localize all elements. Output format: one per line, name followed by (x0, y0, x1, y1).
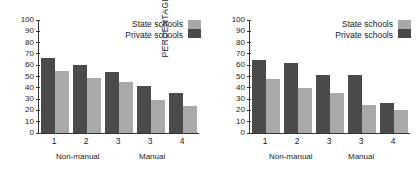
bar-private-schools (284, 63, 298, 133)
bar-group (252, 20, 280, 133)
y-axis-ticks-left: 1009080706050403020100 (14, 20, 39, 133)
bar-state-schools (362, 105, 376, 133)
y-axis-label-right: PERCENTAGE (159, 0, 171, 83)
y-tick-label: 90 (236, 26, 245, 35)
y-axis-ticks-right: 1009080706050403020100 (225, 20, 250, 133)
bar-group (284, 20, 312, 133)
x-tick-label: 1 (40, 135, 68, 147)
x-tick-label: 3 (315, 135, 343, 147)
legend-label-private-schools: Private schools (335, 30, 393, 41)
bar-chart-figure: PERCENTAGE 1009080706050403020100 12334 … (0, 0, 419, 174)
chart-panel-left: PERCENTAGE 1009080706050403020100 12334 … (0, 0, 209, 174)
y-tick-label: 50 (25, 72, 34, 81)
x-axis-ticks-right: 12334 (249, 135, 409, 147)
x-tick-label: 2 (283, 135, 311, 147)
legend-labels-right: State schools Private schools (335, 19, 393, 41)
bar-private-schools (348, 75, 362, 133)
y-tick-label: 30 (25, 94, 34, 103)
bar-private-schools (252, 60, 266, 133)
legend-swatches-right (398, 20, 411, 38)
y-tick-label: 70 (236, 49, 245, 58)
y-tick-label: 20 (236, 105, 245, 114)
x-axis-group-labels-right: Non-manual Manual (249, 151, 413, 163)
y-tick-label: 100 (21, 15, 34, 24)
y-tick-label: 100 (232, 15, 245, 24)
bar-private-schools (41, 58, 55, 133)
x-tick-label: 4 (379, 135, 407, 147)
legend-swatches-left (188, 20, 201, 38)
y-tick-label: 60 (236, 60, 245, 69)
x-axis-ticks-left: 12334 (38, 135, 198, 147)
bar-state-schools (183, 106, 197, 133)
y-tick-label: 10 (25, 117, 34, 126)
bar-private-schools (316, 75, 330, 133)
legend-right: State schools Private schools (335, 19, 411, 41)
x-group-label-manual: Manual (348, 151, 374, 163)
bar-state-schools (119, 82, 133, 133)
y-tick-label: 70 (25, 49, 34, 58)
bar-private-schools (380, 103, 394, 134)
bar-state-schools (330, 93, 344, 133)
x-tick-label: 3 (104, 135, 132, 147)
x-group-label-non-manual: Non-manual (56, 151, 100, 163)
y-tick-label: 50 (236, 72, 245, 81)
bar-private-schools (105, 72, 119, 133)
y-tick-label: 60 (25, 60, 34, 69)
y-tick-label: 90 (25, 26, 34, 35)
bar-private-schools (137, 86, 151, 133)
chart-panel-right: PERCENTAGE 1009080706050403020100 12334 … (209, 0, 419, 174)
y-tick-label: 80 (25, 38, 34, 47)
legend-swatch-private-schools (188, 29, 201, 38)
y-tick-label: 40 (236, 83, 245, 92)
x-group-label-manual: Manual (139, 151, 165, 163)
bar-state-schools (55, 71, 69, 133)
legend-swatch-state-schools (188, 20, 201, 29)
legend-swatch-state-schools (398, 20, 411, 29)
x-tick-label: 2 (72, 135, 100, 147)
x-tick-label: 4 (168, 135, 196, 147)
bar-group (41, 20, 69, 133)
bar-private-schools (169, 93, 183, 133)
y-tick-label: 40 (25, 83, 34, 92)
y-tick-label: 20 (25, 105, 34, 114)
bar-group (73, 20, 101, 133)
legend-label-state-schools: State schools (132, 19, 183, 30)
legend-swatch-private-schools (398, 29, 411, 38)
x-tick-label: 3 (136, 135, 164, 147)
legend-label-private-schools: Private schools (125, 30, 183, 41)
y-tick-label: 80 (236, 38, 245, 47)
legend-labels-left: State schools Private schools (125, 19, 183, 41)
bar-private-schools (73, 65, 87, 133)
legend-label-state-schools: State schools (342, 19, 393, 30)
bar-state-schools (266, 79, 280, 133)
x-group-label-non-manual: Non-manual (269, 151, 313, 163)
x-axis-group-labels-left: Non-manual Manual (38, 151, 202, 163)
bar-state-schools (394, 110, 408, 133)
bar-state-schools (298, 88, 312, 133)
x-tick-label: 1 (251, 135, 279, 147)
bar-state-schools (151, 100, 165, 133)
y-tick-label: 0 (241, 128, 245, 137)
y-tick-label: 10 (236, 117, 245, 126)
y-tick-label: 30 (236, 94, 245, 103)
bar-state-schools (87, 78, 101, 133)
y-tick-label: 0 (30, 128, 34, 137)
x-tick-label: 3 (347, 135, 375, 147)
